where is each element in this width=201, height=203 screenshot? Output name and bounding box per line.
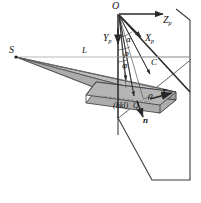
figure-canvas: O S L Zp Xp Yp C α ρ φ (hkl) Q ρ r n	[0, 0, 201, 203]
source-point	[14, 55, 17, 58]
diagram-svg	[0, 0, 201, 203]
